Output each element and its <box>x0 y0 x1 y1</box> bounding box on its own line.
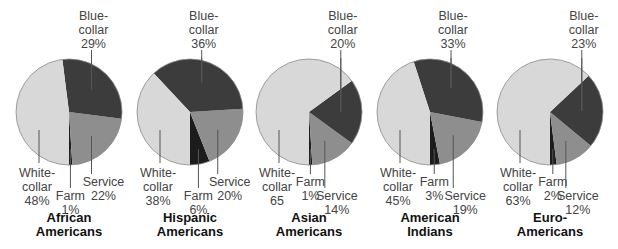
label-service: Service22% <box>83 175 125 203</box>
label-white-collar: White-collar65 <box>259 166 295 208</box>
label-blue-collar: Blue-collar23% <box>569 9 599 51</box>
group-title: AmericanIndians <box>400 210 459 239</box>
label-service: Service20% <box>209 175 251 203</box>
pie-american-indians: Blue-collar33%White-collar45%Farm3%Servi… <box>377 9 486 239</box>
slice-service <box>69 112 122 165</box>
pie-asian-americans: Blue-collar20%White-collar65Farm1%Servic… <box>256 9 362 239</box>
label-white-collar: White-collar38% <box>140 166 176 208</box>
label-blue-collar: Blue-collar36% <box>189 9 219 51</box>
label-blue-collar: Blue-collar20% <box>328 9 358 51</box>
pie-euro-americans: Blue-collar23%White-collar63%Farm2%Servi… <box>497 9 603 239</box>
slice-blue-collar <box>62 59 122 119</box>
pie-charts: Blue-collar29%White-collar48%Farm1%Servi… <box>0 0 618 249</box>
slice-white-collar <box>16 59 69 165</box>
group-title: AfricanAmericans <box>36 210 102 239</box>
label-blue-collar: Blue-collar33% <box>438 9 468 51</box>
label-white-collar: White-collar48% <box>19 166 55 208</box>
pie-hispanic-americans: Blue-collar36%White-collar38%Farm6%Servi… <box>137 9 251 239</box>
label-white-collar: White-collar63% <box>500 166 536 208</box>
label-blue-collar: Blue-collar29% <box>79 9 109 51</box>
group-title: HispanicAmericans <box>157 210 223 239</box>
label-white-collar: White-collar45% <box>380 166 416 208</box>
pie-african-americans: Blue-collar29%White-collar48%Farm1%Servi… <box>16 9 124 239</box>
